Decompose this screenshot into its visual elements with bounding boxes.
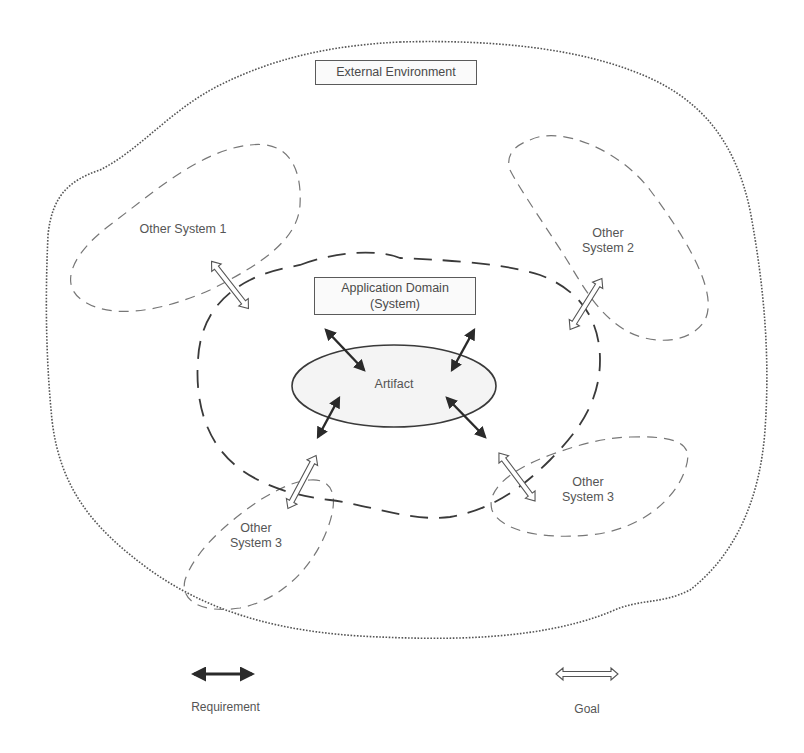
goal-arrow-system-2 bbox=[565, 275, 607, 332]
application-domain-box: Application Domain (System) bbox=[314, 277, 476, 315]
other-system-3-right-line1: Other bbox=[548, 475, 628, 490]
other-system-3-left-line2: System 3 bbox=[216, 536, 296, 551]
external-environment-label: External Environment bbox=[336, 65, 456, 79]
other-system-3-right-line2: System 3 bbox=[548, 490, 628, 505]
other-system-3-left-label: Other System 3 bbox=[216, 521, 296, 551]
goal-arrow-system-3-left bbox=[283, 453, 322, 512]
application-domain-sublabel: (System) bbox=[315, 296, 475, 312]
other-system-2-line2: System 2 bbox=[568, 241, 648, 256]
application-domain-label: Application Domain bbox=[315, 280, 475, 296]
other-system-2-label: Other System 2 bbox=[568, 226, 648, 256]
external-environment-box: External Environment bbox=[315, 60, 477, 85]
other-system-3-right-label: Other System 3 bbox=[548, 475, 628, 505]
artifact-label: Artifact bbox=[364, 377, 424, 392]
goal-arrow-system-1 bbox=[207, 258, 253, 313]
other-system-1-label: Other System 1 bbox=[128, 222, 238, 237]
legend-requirement-label: Requirement bbox=[183, 700, 268, 715]
other-system-2-line1: Other bbox=[568, 226, 648, 241]
other-system-1-name: Other System 1 bbox=[128, 222, 238, 237]
legend-goal-label: Goal bbox=[567, 702, 607, 717]
legend-goal-icon bbox=[556, 668, 618, 680]
external-environment-boundary bbox=[46, 42, 767, 639]
other-system-3-left-line1: Other bbox=[216, 521, 296, 536]
